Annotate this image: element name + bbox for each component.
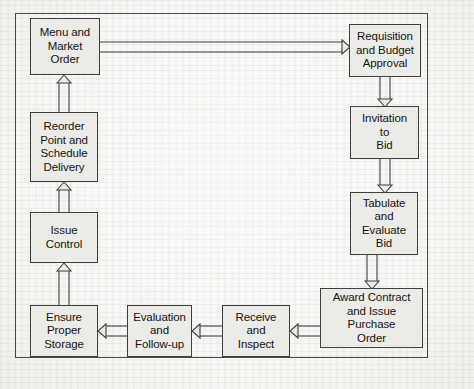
node-ensure-proper-storage[interactable]: Ensure Proper Storage <box>30 305 98 357</box>
node-award-contract-and-issue-purchase-order[interactable]: Award Contract and Issue Purchase Order <box>320 288 423 348</box>
node-invitation-to-bid[interactable]: Invitation to Bid <box>350 106 419 159</box>
node-requisition-and-budget-approval[interactable]: Requisition and Budget Approval <box>349 24 421 77</box>
node-menu-and-market-order[interactable]: Menu and Market Order <box>30 18 100 75</box>
node-issue-control[interactable]: Issue Control <box>30 212 98 263</box>
node-reorder-point-and-schedule-delivery[interactable]: Reorder Point and Schedule Delivery <box>30 112 98 182</box>
node-tabulate-and-evaluate-bid[interactable]: Tabulate and Evaluate Bid <box>350 192 418 255</box>
flowchart-page: Menu and Market Order Requisition and Bu… <box>0 0 474 389</box>
node-evaluation-and-follow-up[interactable]: Evaluation and Follow-up <box>127 305 192 357</box>
node-receive-and-inspect[interactable]: Receive and Inspect <box>222 305 290 357</box>
